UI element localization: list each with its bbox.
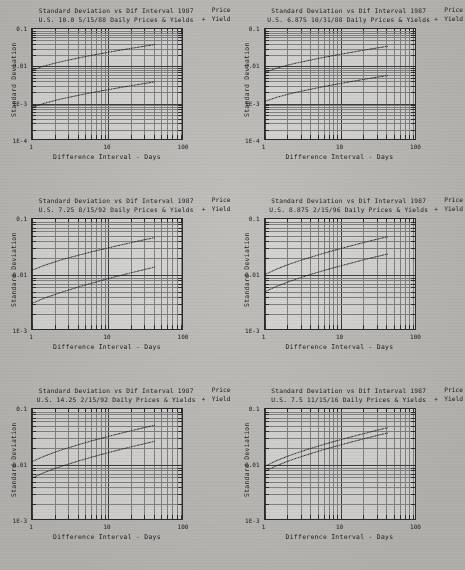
x-tick-label: 100: [410, 333, 421, 340]
y-tick-label: 0.1: [235, 405, 260, 412]
chart-title-1: Standard Deviation vs Dif Interval 1987: [0, 6, 233, 15]
legend-2: Price Yield +: [444, 5, 463, 23]
legend-yield-2: Yield: [444, 14, 463, 23]
scanned-page: Standard Deviation vs Dif Interval 1987 …: [0, 0, 465, 570]
legend-marker-icon-5: +: [202, 394, 206, 403]
chart-panel-2: Standard Deviation vs Dif Interval 1987 …: [233, 0, 465, 190]
legend-yield-3: Yield: [212, 204, 231, 213]
chart-subtitle-6: U.S. 7.5 11/15/16 Daily Prices & Yields: [233, 395, 465, 404]
chart-title-6: Standard Deviation vs Dif Interval 1987: [233, 386, 465, 395]
legend-price-3: Price: [212, 195, 231, 204]
plot-area-2: [264, 28, 416, 140]
chart-title-5: Standard Deviation vs Dif Interval 1987: [0, 386, 233, 395]
chart-title-block-1: Standard Deviation vs Dif Interval 1987 …: [0, 6, 233, 24]
x-axis-label-1: Difference Interval - Days: [31, 153, 183, 161]
plot-area-3: [31, 218, 183, 330]
plot-frame-4: [264, 218, 416, 330]
legend-yield-4: Yield: [444, 204, 463, 213]
y-tick-label: 0.01: [2, 461, 27, 468]
y-tick-label: 0.1: [235, 215, 260, 222]
chart-subtitle-4: U.S. 8.875 2/15/96 Daily Prices & Yields: [233, 205, 465, 214]
legend-yield-6: Yield: [444, 394, 463, 403]
y-tick-label: 0.01: [235, 62, 260, 69]
chart-title-block-4: Standard Deviation vs Dif Interval 1987 …: [233, 196, 465, 214]
y-tick-label: 0.01: [235, 461, 260, 468]
plot-area-5: [31, 408, 183, 520]
legend-6: Price Yield +: [444, 385, 463, 403]
plot-frame-2: [264, 28, 416, 140]
x-tick-label: 10: [336, 143, 343, 150]
x-axis-label-3: Difference Interval - Days: [31, 343, 183, 351]
series-layer-2: [265, 29, 416, 140]
chart-panel-6: Standard Deviation vs Dif Interval 1987 …: [233, 380, 465, 570]
y-tick-label: 1E-3: [2, 327, 27, 334]
series-layer-4: [265, 219, 416, 330]
chart-panel-4: Standard Deviation vs Dif Interval 1987 …: [233, 190, 465, 380]
y-tick-label: 1E-3: [235, 517, 260, 524]
series-layer-5: [32, 409, 183, 520]
x-tick-label: 1: [262, 333, 266, 340]
y-tick-label: 0.01: [235, 271, 260, 278]
y-tick-label: 0.1: [235, 25, 260, 32]
plot-area-6: [264, 408, 416, 520]
chart-title-block-6: Standard Deviation vs Dif Interval 1987 …: [233, 386, 465, 404]
legend-marker-icon-4: +: [434, 204, 438, 213]
plot-frame-6: [264, 408, 416, 520]
x-tick-label: 1: [262, 143, 266, 150]
legend-yield-1: Yield: [212, 14, 231, 23]
chart-subtitle-3: U.S. 7.25 8/15/92 Daily Prices & Yields: [0, 205, 233, 214]
x-tick-label: 100: [410, 143, 421, 150]
chart-subtitle-5: U.S. 14.25 2/15/92 Daily Prices & Yields: [0, 395, 233, 404]
x-tick-label: 10: [336, 333, 343, 340]
legend-4: Price Yield +: [444, 195, 463, 213]
plot-frame-3: [31, 218, 183, 330]
x-tick-label: 100: [410, 523, 421, 530]
chart-title-block-2: Standard Deviation vs Dif Interval 1987 …: [233, 6, 465, 24]
legend-price-6: Price: [444, 385, 463, 394]
plot-area-1: [31, 28, 183, 140]
chart-title-2: Standard Deviation vs Dif Interval 1987: [233, 6, 465, 15]
legend-marker-icon-3: +: [202, 204, 206, 213]
x-tick-label: 1: [262, 523, 266, 530]
chart-title-3: Standard Deviation vs Dif Interval 1987: [0, 196, 233, 205]
legend-marker-icon-1: +: [202, 14, 206, 23]
y-tick-label: 0.1: [2, 215, 27, 222]
legend-price-4: Price: [444, 195, 463, 204]
x-tick-label: 1: [29, 333, 33, 340]
y-tick-label: 1E-3: [235, 99, 260, 106]
x-axis-label-2: Difference Interval - Days: [264, 153, 416, 161]
x-axis-label-4: Difference Interval - Days: [264, 343, 416, 351]
series-layer-6: [265, 409, 416, 520]
x-tick-label: 10: [336, 523, 343, 530]
chart-title-block-3: Standard Deviation vs Dif Interval 1987 …: [0, 196, 233, 214]
legend-3: Price Yield +: [212, 195, 231, 213]
chart-title-4: Standard Deviation vs Dif Interval 1987: [233, 196, 465, 205]
y-tick-label: 0.1: [2, 405, 27, 412]
legend-price-1: Price: [212, 5, 231, 14]
legend-1: Price Yield +: [212, 5, 231, 23]
chart-title-block-5: Standard Deviation vs Dif Interval 1987 …: [0, 386, 233, 404]
chart-subtitle-2: U.S. 6.875 10/31/88 Daily Prices & Yield…: [233, 15, 465, 24]
x-tick-label: 1: [29, 523, 33, 530]
y-tick-label: 1E-3: [2, 99, 27, 106]
y-tick-label: 0.01: [2, 271, 27, 278]
y-tick-label: 1E-3: [2, 517, 27, 524]
legend-marker-icon-2: +: [434, 14, 438, 23]
x-axis-label-5: Difference Interval - Days: [31, 533, 183, 541]
y-tick-label: 0.1: [2, 25, 27, 32]
x-tick-label: 100: [178, 143, 189, 150]
plot-area-4: [264, 218, 416, 330]
y-tick-label: 1E-4: [2, 137, 27, 144]
chart-panel-3: Standard Deviation vs Dif Interval 1987 …: [0, 190, 233, 380]
chart-panel-5: Standard Deviation vs Dif Interval 1987 …: [0, 380, 233, 570]
legend-marker-icon-6: +: [434, 394, 438, 403]
x-tick-label: 100: [178, 333, 189, 340]
series-layer-3: [32, 219, 183, 330]
legend-yield-5: Yield: [212, 394, 231, 403]
plot-frame-5: [31, 408, 183, 520]
x-tick-label: 100: [178, 523, 189, 530]
x-axis-label-6: Difference Interval - Days: [264, 533, 416, 541]
x-tick-label: 10: [103, 333, 110, 340]
y-tick-label: 0.01: [2, 62, 27, 69]
chart-subtitle-1: U.S. 10.0 5/15/88 Daily Prices & Yields: [0, 15, 233, 24]
